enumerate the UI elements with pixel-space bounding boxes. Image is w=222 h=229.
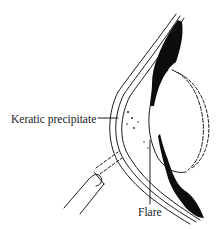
lens-back xyxy=(172,70,203,170)
iris-lower xyxy=(158,134,204,218)
iris-upper xyxy=(150,20,183,106)
keratic-precipitate-label: Keratic precipitate xyxy=(11,114,96,126)
lens-back-2 xyxy=(176,72,209,168)
sclera-line xyxy=(122,18,200,220)
slit-lamp-tube xyxy=(64,172,104,214)
flare-label: Flare xyxy=(138,207,162,219)
